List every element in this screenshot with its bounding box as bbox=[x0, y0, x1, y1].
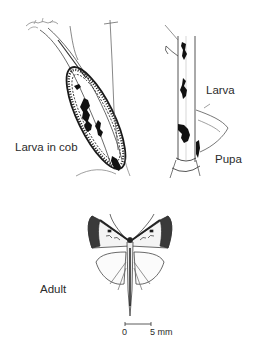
larva-in-stalk-markings bbox=[178, 42, 190, 143]
label-larva: Larva bbox=[206, 84, 235, 96]
scale-bar-end-label: 5 mm bbox=[150, 327, 173, 337]
label-pupa: Pupa bbox=[215, 153, 242, 165]
label-adult: Adult bbox=[40, 283, 66, 295]
illustration bbox=[0, 0, 256, 348]
label-larva-in-cob: Larva in cob bbox=[15, 141, 78, 153]
scale-bar-start-label: 0 bbox=[122, 327, 127, 337]
scale-bar bbox=[125, 322, 151, 326]
adult-moth-drawing bbox=[88, 214, 172, 316]
pupa-marking bbox=[196, 140, 200, 158]
